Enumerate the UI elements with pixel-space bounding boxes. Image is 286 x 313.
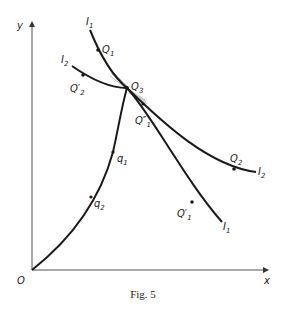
label-i2-top: I2 [61, 54, 69, 68]
point-q1-prime [190, 200, 194, 204]
label-q1: Q1 [102, 44, 114, 58]
label-q2-small: q2 [94, 198, 105, 212]
point-markers [81, 48, 236, 204]
point-q3 [125, 86, 129, 90]
figure-caption: Fig. 5 [130, 288, 156, 300]
point-q1-cap [96, 48, 100, 52]
origin-label: O [17, 275, 25, 286]
y-axis-label: y [16, 20, 24, 31]
point-q1-small [111, 150, 114, 153]
label-i2-right: I2 [258, 166, 266, 180]
indifference-diagram: y x O I1 I2 I2 I1 Q1 Q′2 Q3 Q″1 Q2 Q′1 q… [0, 0, 286, 313]
indifference-curve-i2 [72, 66, 256, 172]
label-q1-small: q1 [117, 153, 128, 167]
point-q2-prime [81, 73, 85, 77]
label-i1-right: I1 [223, 221, 230, 235]
label-q2-prime: Q′2 [70, 83, 85, 97]
label-i1-top: I1 [86, 16, 93, 30]
label-q1-prime: Q′1 [177, 208, 192, 222]
point-q1-dprime [141, 102, 144, 105]
indifference-curve-i1 [90, 30, 222, 222]
point-q2-small [89, 195, 92, 198]
expansion-path [32, 88, 127, 270]
point-q2-cap [232, 167, 236, 171]
x-axis-label: x [263, 275, 270, 286]
